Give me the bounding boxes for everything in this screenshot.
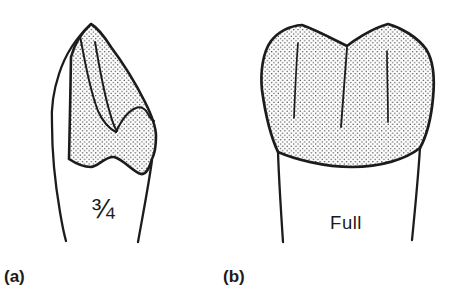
- panel-a-caption: (a): [4, 267, 25, 287]
- tooth-b-stippled-crown-area: [261, 24, 433, 167]
- tooth-a-coverage-label: ¾: [86, 194, 120, 224]
- tooth-b-coverage-label: Full: [316, 211, 376, 235]
- tooth-b-groove-right: [387, 51, 388, 122]
- tooth-b-drawing: [261, 24, 433, 242]
- tooth-b-root-right-line: [412, 148, 420, 240]
- tooth-b-root-left-line: [278, 152, 283, 242]
- figure-crown-coverage-diagram: ¾ Full (a) (b): [0, 0, 455, 305]
- tooth-line-art: [0, 0, 455, 305]
- panel-b-caption: (b): [223, 267, 245, 287]
